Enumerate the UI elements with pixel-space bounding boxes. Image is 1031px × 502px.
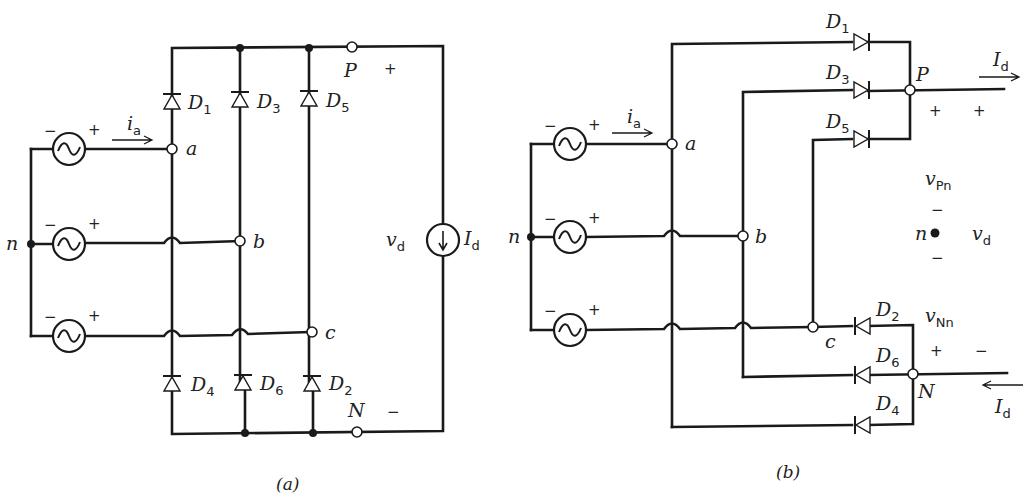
node-n-terminal [352,427,362,437]
label-d2: D2 [328,372,353,398]
vpn-plus-sign: + [929,102,942,120]
center-n-dot [931,229,940,238]
label-d3: D3 [256,90,281,116]
panel-b: D1 D3 D5 D2 D6 D4 − + − + − + n ia [508,10,1023,482]
diode-d3 [854,81,869,99]
vd-label: vd [972,222,991,248]
label-d2: D2 [875,298,900,324]
node-n-label: N [347,399,366,421]
vpn-label: vPn [925,167,952,193]
vnn-label: vNn [925,304,954,330]
neutral-label: n [508,225,520,247]
source-a-minus: − [544,117,557,135]
diode-d2 [303,376,321,391]
diode-d3 [231,92,249,107]
node-a-terminal [667,139,677,149]
node-b-terminal [738,231,748,241]
diode-d2 [855,317,870,335]
label-d1: D1 [187,91,212,117]
junction-dot [236,44,244,52]
current-arrow-icon [112,136,152,144]
vnn-minus-sign: − [931,249,944,267]
id-label: Id [463,227,480,253]
diode-d5 [854,130,869,148]
source-b-minus: − [44,216,57,234]
label-d1: D1 [825,10,850,36]
label-d4: D4 [190,373,215,399]
node-b-terminal [235,236,245,246]
row-a-lower-wire [672,425,852,427]
source-a-plus: + [88,121,101,139]
label-d5: D5 [325,89,350,115]
node-c-terminal [307,327,317,337]
source-c-minus: − [44,308,57,326]
label-d4: D4 [875,392,900,418]
source-a-plus: + [588,116,601,134]
vd-minus-sign: − [387,403,400,421]
vd-plus-sign: + [384,60,397,78]
source-b-minus: − [544,210,557,228]
row-c-lower-wire [813,326,852,327]
source-a-minus: − [44,122,57,140]
ac-source-c [53,320,85,352]
p-bus-wire [868,42,1004,139]
row-b-lower-wire [743,375,852,377]
vd-label: vd [386,228,405,254]
node-p-terminal [905,85,915,95]
ac-source-b [554,221,586,253]
current-ia-label: ia [627,105,641,131]
label-d3: D3 [825,61,850,87]
source-b-plus: + [588,209,601,227]
current-ia-label: ia [127,112,141,138]
junction-dot [309,429,317,437]
source-b-plus: + [88,215,101,233]
vd-plus-sign: + [973,102,986,120]
node-p-label: P [915,63,930,85]
diode-d1 [163,94,181,109]
diode-d4 [163,376,181,391]
ac-source-c [554,314,586,346]
vnn-plus-sign: + [930,342,943,360]
rectifier-figure: − + − + − + n ia [0,0,1031,502]
ac-source-b [53,228,85,260]
diode-d6 [234,375,252,390]
node-c-terminal [808,322,818,332]
neutral-label: n [6,232,18,254]
center-n-label: n [915,222,927,244]
current-arrow-icon [612,129,652,137]
id-in-label: Id [994,395,1011,421]
vpn-minus-sign: − [931,201,944,219]
node-p-label: P [343,59,358,81]
id-out-arrow-icon [979,73,1019,81]
node-b-label: b [755,225,767,247]
caption-b: (b) [776,462,800,482]
id-in-arrow-icon [983,381,1023,389]
vd-minus-sign: − [975,342,988,360]
caption-a: (a) [276,474,299,494]
diode-d1 [854,33,869,51]
node-c-label: c [825,330,836,352]
source-c-minus: − [544,302,557,320]
node-n-terminal [908,369,918,379]
current-source-id [427,224,459,256]
source-c-plus: + [588,301,601,319]
label-d6: D6 [875,344,900,370]
diode-d5 [300,91,318,106]
top-rail-wire [172,46,443,224]
junction-dot [305,44,313,52]
ac-source-a [53,133,85,165]
node-n-label: N [917,380,936,402]
junction-dot [241,429,249,437]
node-b-label: b [253,230,265,252]
diode-d6 [855,366,870,384]
column-c-wire [813,139,852,327]
neutral-junction-dot [27,240,35,248]
label-d5: D5 [825,110,850,136]
node-c-label: c [325,321,336,343]
node-a-terminal [167,144,177,154]
label-d6: D6 [259,372,284,398]
source-c-plus: + [88,307,101,325]
node-p-terminal [347,42,357,52]
node-a-label: a [685,132,696,154]
diode-d4 [855,416,870,434]
